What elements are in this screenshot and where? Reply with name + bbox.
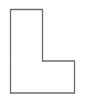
- diagram-canvas: [0, 0, 85, 99]
- l-shape-outline: [11, 10, 75, 94]
